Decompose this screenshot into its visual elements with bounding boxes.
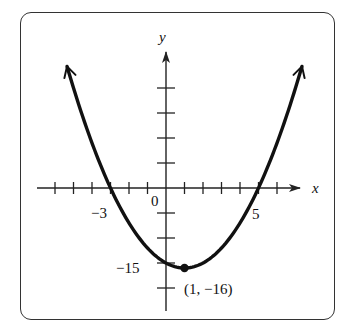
tick-label-origin: 0	[151, 193, 159, 209]
tick-label-5: 5	[252, 206, 260, 222]
tick-label-neg15: −15	[116, 260, 139, 276]
vertex-label: (1, −16)	[184, 281, 232, 298]
parabola-chart: y x −3 0 5 −15 (1, −16)	[0, 0, 338, 329]
x-axis-label: x	[311, 180, 319, 196]
tick-label-neg3: −3	[91, 205, 107, 221]
parabola-curve	[67, 66, 302, 268]
vertex-point	[180, 264, 188, 272]
y-axis-label: y	[157, 29, 166, 45]
